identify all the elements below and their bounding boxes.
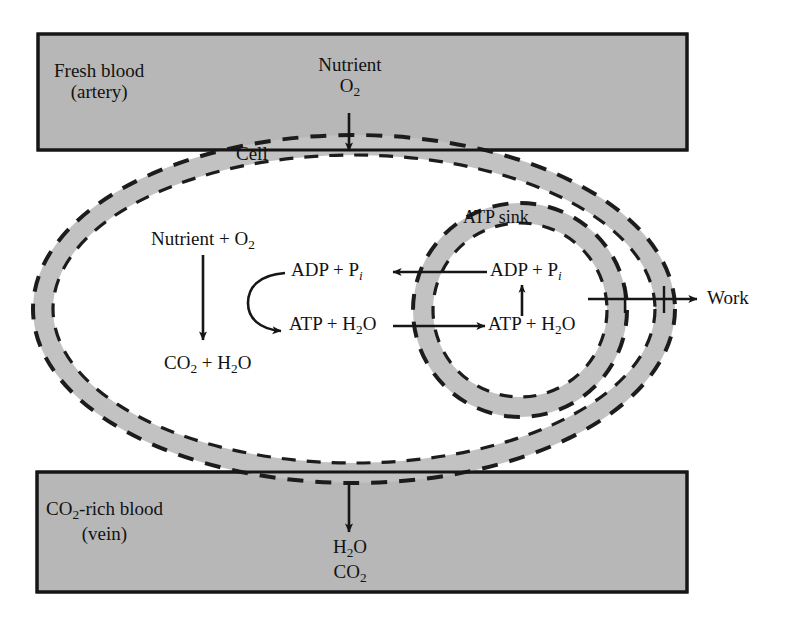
sink-atp-label: ATP + H2O [488,313,575,338]
substrate-label: Nutrient + O2 [151,228,255,253]
work-output-label: Work [707,287,749,308]
catabolic-waste-label: CO2 + H2O [164,352,251,377]
waste-output-label: H2O CO2 [310,536,390,585]
vein-label: CO2-rich blood (vein) [46,498,163,544]
diagram-canvas: Fresh blood (artery) CO2-rich blood (vei… [0,0,788,630]
atp-sink-body [413,203,627,417]
atp-sink-label: ATP sink [463,207,529,227]
artery-label: Fresh blood (artery) [54,60,144,103]
cytosolic-adp-label: ADP + Pi [291,259,363,284]
cytosolic-atp-label: ATP + H2O [289,313,376,338]
nutrient-input-label: Nutrient O2 [305,54,395,100]
sink-adp-label: ADP + Pi [490,259,562,284]
cell-label: Cell [236,143,268,164]
